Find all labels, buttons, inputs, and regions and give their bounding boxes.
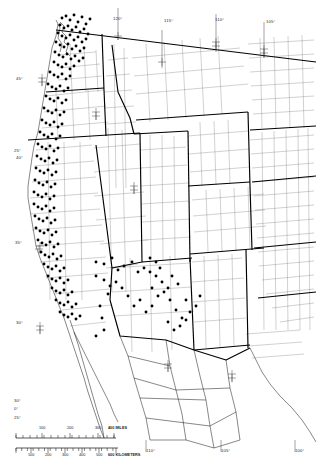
distribution-dot <box>157 295 160 298</box>
distribution-dot <box>35 167 38 170</box>
distribution-dot <box>69 75 72 78</box>
distribution-dot <box>48 157 51 160</box>
distribution-dot <box>47 229 50 232</box>
longitude-label: 105° <box>221 448 230 453</box>
distribution-dot <box>43 263 46 266</box>
scale-unit-miles: 400 MILES <box>108 426 127 430</box>
distribution-dot <box>49 71 52 74</box>
distribution-dot <box>173 329 176 332</box>
latitude-label: 30° <box>14 398 21 403</box>
distribution-dot <box>103 279 106 282</box>
distribution-dot <box>47 266 50 269</box>
distribution-dot <box>57 76 60 79</box>
distribution-dot <box>55 41 58 44</box>
distribution-dot <box>39 170 42 173</box>
distribution-dot <box>103 329 106 332</box>
distribution-dot <box>177 283 180 286</box>
distribution-dot <box>55 265 58 268</box>
distribution-dot <box>61 66 64 69</box>
distribution-dot <box>95 335 98 338</box>
distribution-dot <box>41 119 44 122</box>
distribution-dot <box>63 111 66 114</box>
distribution-dot <box>63 46 66 49</box>
distribution-dot <box>51 278 54 281</box>
latitude-label: 35° <box>15 240 22 245</box>
distribution-dot <box>59 114 62 117</box>
distribution-dot <box>67 43 70 46</box>
distribution-dot <box>70 58 73 61</box>
distribution-dot <box>65 63 68 66</box>
distribution-dot <box>69 19 72 22</box>
distribution-dot <box>59 85 62 88</box>
distribution-dot <box>103 263 106 266</box>
distribution-dot <box>55 109 58 112</box>
distribution-dot <box>63 27 66 30</box>
distribution-dot <box>37 206 40 209</box>
distribution-dot <box>101 317 104 320</box>
distribution-dot <box>131 261 134 264</box>
distribution-dot <box>53 74 56 77</box>
distribution-dot <box>38 218 41 221</box>
distribution-dot <box>38 182 41 185</box>
distribution-dot <box>58 54 61 57</box>
distribution-dot <box>87 33 90 36</box>
distribution-dot <box>39 131 42 134</box>
distribution-dot <box>47 275 50 278</box>
distribution-dot <box>47 136 50 139</box>
latitude-label: 30° <box>16 320 23 325</box>
scale-tick-label-km: 200 <box>45 453 51 457</box>
distribution-dot <box>45 95 48 98</box>
distribution-dot <box>77 21 80 24</box>
distribution-dot <box>65 78 68 81</box>
distribution-dot <box>33 191 36 194</box>
distribution-dot <box>49 198 52 201</box>
distribution-dot <box>37 194 40 197</box>
longitude-label: 100° <box>295 448 304 453</box>
distribution-dot <box>51 112 54 115</box>
distribution-dot <box>40 158 43 161</box>
distribution-dot <box>79 315 82 318</box>
distribution-dot <box>41 146 44 149</box>
distribution-dot <box>42 184 45 187</box>
distribution-dot <box>61 123 64 126</box>
scale-unit-km: 600 KILOMETERS <box>108 453 140 457</box>
distribution-dot <box>67 301 70 304</box>
distribution-dot <box>83 47 86 50</box>
distribution-dot <box>167 287 170 290</box>
distribution-dot <box>54 219 57 222</box>
distribution-dot <box>41 242 44 245</box>
distribution-dot <box>74 55 77 58</box>
distribution-dot <box>53 150 56 153</box>
distribution-dot <box>57 97 60 100</box>
distribution-dot <box>47 110 50 113</box>
distribution-dot <box>67 316 70 319</box>
distribution-dot <box>155 275 158 278</box>
distribution-dot <box>54 51 57 54</box>
distribution-dot <box>55 171 58 174</box>
latitude-label: 25° <box>14 415 21 420</box>
distribution-dot <box>137 271 140 274</box>
distribution-dot <box>57 147 60 150</box>
distribution-dot <box>71 29 74 32</box>
distribution-dot <box>71 291 74 294</box>
distribution-dot <box>55 299 58 302</box>
distribution-dot <box>109 285 112 288</box>
distribution-dot <box>59 311 62 314</box>
distribution-dot <box>37 239 40 242</box>
distribution-dot <box>127 295 130 298</box>
longitude-label: 110° <box>215 17 224 22</box>
distribution-dot <box>145 311 148 314</box>
distribution-dot <box>43 134 46 137</box>
latitude-label: 25° <box>14 148 21 153</box>
distribution-dot <box>63 282 66 285</box>
distribution-dot <box>55 231 58 234</box>
distribution-dot <box>56 159 59 162</box>
distribution-dot <box>95 275 98 278</box>
distribution-dot <box>67 279 70 282</box>
distribution-dot <box>195 305 198 308</box>
distribution-dot <box>75 45 78 48</box>
distribution-dot <box>51 234 54 237</box>
distribution-dot <box>171 275 174 278</box>
distribution-dot <box>44 160 47 163</box>
distribution-dot <box>57 32 60 35</box>
